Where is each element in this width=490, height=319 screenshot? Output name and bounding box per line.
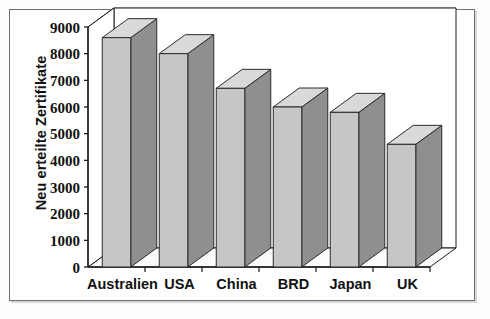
y-tick-label: 8000 — [50, 46, 80, 62]
bar-china — [216, 69, 271, 267]
x-tick-label: Japan — [330, 276, 372, 292]
y-tick-label: 9000 — [50, 20, 80, 36]
x-tick-labels: AustralienUSAChinaBRDJapanUK — [87, 276, 418, 292]
y-tick-label: 1000 — [50, 233, 80, 249]
screenshot-canvas: Neu erteilte Zertifikate 010002000300040… — [0, 0, 490, 319]
y-tick-label: 7000 — [50, 73, 80, 89]
bar-uk — [387, 125, 442, 267]
bar-chart: 0100020003000400050006000700080009000 Au… — [0, 0, 490, 319]
x-tick-label: BRD — [278, 276, 309, 292]
bar-usa — [159, 35, 214, 267]
x-tick-label: USA — [164, 276, 195, 292]
bar-japan — [330, 93, 385, 267]
x-tick-label: Australien — [87, 276, 158, 292]
y-tick-labels: 0100020003000400050006000700080009000 — [50, 20, 80, 276]
x-tick-label: UK — [397, 276, 418, 292]
bar-australien — [102, 19, 157, 267]
bar-brd — [273, 88, 328, 267]
y-tick-label: 4000 — [50, 153, 80, 169]
y-tick-label: 0 — [73, 260, 81, 276]
y-tick-label: 3000 — [50, 180, 80, 196]
x-tick-label: China — [216, 276, 257, 292]
y-tick-label: 5000 — [50, 126, 80, 142]
y-tick-label: 2000 — [50, 206, 80, 222]
y-tick-label: 6000 — [50, 100, 80, 116]
